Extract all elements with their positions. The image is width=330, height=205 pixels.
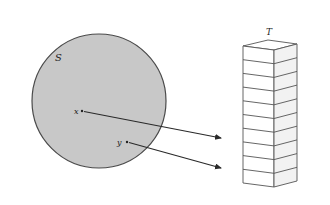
- point-x-label: x: [74, 107, 79, 116]
- table-t-label: T: [266, 27, 273, 37]
- set-s-label: S: [55, 52, 62, 63]
- mapping-diagram: S x y: [0, 0, 330, 205]
- point-x-dot: [81, 110, 83, 112]
- set-s-circle: [32, 34, 166, 168]
- point-y-label: y: [116, 138, 122, 147]
- arrow-y-to-slot: [129, 143, 221, 169]
- set-s: S: [32, 34, 166, 168]
- table-t: [243, 40, 297, 187]
- point-y-dot: [126, 141, 128, 143]
